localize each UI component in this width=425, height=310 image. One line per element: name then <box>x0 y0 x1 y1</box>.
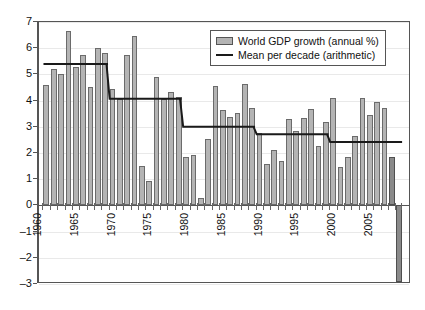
x-axis-tick <box>388 203 389 210</box>
line-swatch-icon <box>216 54 233 56</box>
x-axis-tick <box>366 203 367 210</box>
y-axis-label: 6 <box>26 42 32 53</box>
x-axis-tick <box>116 203 117 210</box>
x-axis-tick <box>109 203 110 210</box>
x-axis-label: 1965 <box>69 213 80 236</box>
x-axis-tick <box>351 203 352 210</box>
x-axis-tick <box>50 203 51 210</box>
x-axis-label: 1960 <box>32 213 43 236</box>
x-axis-tick <box>270 203 271 210</box>
y-axis-tick <box>33 204 37 205</box>
y-axis-tick <box>33 73 37 74</box>
x-axis-tick <box>307 203 308 210</box>
x-axis-tick <box>72 203 73 210</box>
x-axis-tick <box>65 203 66 210</box>
x-axis-tick <box>263 203 264 210</box>
bar-swatch-icon <box>216 37 233 45</box>
y-axis-tick <box>33 283 37 284</box>
x-axis-tick <box>373 203 374 210</box>
y-axis-label: –2 <box>20 251 32 262</box>
x-axis-tick <box>160 203 161 210</box>
x-axis-tick <box>94 203 95 210</box>
x-axis-tick <box>123 203 124 210</box>
x-axis-tick <box>79 203 80 210</box>
x-axis-label: 1985 <box>216 213 227 236</box>
y-axis-label: 2 <box>26 147 32 158</box>
x-axis-tick <box>241 203 242 210</box>
y-axis-tick <box>33 152 37 153</box>
x-axis-ticks <box>38 203 410 210</box>
y-axis-tick <box>33 21 37 22</box>
legend-item-mean-per-decade: Mean per decade (arithmetic) <box>216 48 379 62</box>
x-axis-tick <box>278 203 279 210</box>
x-axis-tick <box>204 203 205 210</box>
y-axis-label: 1 <box>26 173 32 184</box>
y-axis-tick <box>33 47 37 48</box>
y-axis-tick <box>33 257 37 258</box>
gdp-growth-chart: World GDP growth (annual %) Mean per dec… <box>0 0 425 310</box>
x-axis-tick <box>87 203 88 210</box>
x-axis-tick <box>42 203 43 210</box>
x-axis-tick <box>190 203 191 210</box>
x-axis-tick <box>212 203 213 210</box>
x-axis-tick <box>315 203 316 210</box>
x-axis-tick <box>101 203 102 210</box>
y-axis-label: –3 <box>20 278 32 289</box>
legend-item-gdp-growth: World GDP growth (annual %) <box>216 34 379 48</box>
y-axis-label: 3 <box>26 120 32 131</box>
x-axis-tick <box>57 203 58 210</box>
x-axis-label: 2000 <box>326 213 337 236</box>
x-axis-tick <box>197 203 198 210</box>
x-axis-tick <box>145 203 146 210</box>
x-axis-label: 1990 <box>253 213 264 236</box>
x-axis-tick <box>337 203 338 210</box>
x-axis-tick <box>175 203 176 210</box>
gridline <box>39 284 409 285</box>
x-axis-tick <box>226 203 227 210</box>
x-axis-tick <box>256 203 257 210</box>
mean-step-path <box>43 64 402 142</box>
y-axis-tick <box>33 126 37 127</box>
x-axis-label: 2005 <box>363 213 374 236</box>
x-axis-label: 1970 <box>106 213 117 236</box>
x-axis-tick <box>131 203 132 210</box>
x-axis-label: 1995 <box>289 213 300 236</box>
x-axis-tick <box>285 203 286 210</box>
x-axis-tick <box>300 203 301 210</box>
x-axis-tick <box>138 203 139 210</box>
x-axis-tick <box>167 203 168 210</box>
x-axis-tick <box>153 203 154 210</box>
x-axis-tick <box>395 203 396 210</box>
x-axis-tick <box>359 203 360 210</box>
y-axis-tick <box>33 178 37 179</box>
y-axis-label: 5 <box>26 68 32 79</box>
x-axis-tick <box>329 203 330 210</box>
x-axis-label: 1975 <box>142 213 153 236</box>
legend-label-gdp-growth: World GDP growth (annual %) <box>238 34 379 48</box>
y-axis-label: 0 <box>26 199 32 210</box>
y-axis-label: 4 <box>26 94 32 105</box>
x-axis-tick <box>248 203 249 210</box>
x-axis-tick <box>219 203 220 210</box>
x-axis-tick <box>292 203 293 210</box>
x-axis-tick <box>182 203 183 210</box>
chart-legend: World GDP growth (annual %) Mean per dec… <box>210 30 386 66</box>
x-axis-tick <box>401 203 402 210</box>
x-axis-tick <box>322 203 323 210</box>
y-axis-tick <box>33 100 37 101</box>
x-axis-label: 1980 <box>179 213 190 236</box>
y-axis-label: 7 <box>26 16 32 27</box>
x-axis-tick <box>381 203 382 210</box>
x-axis-tick <box>234 203 235 210</box>
legend-label-mean-per-decade: Mean per decade (arithmetic) <box>238 48 375 62</box>
x-axis-tick <box>344 203 345 210</box>
